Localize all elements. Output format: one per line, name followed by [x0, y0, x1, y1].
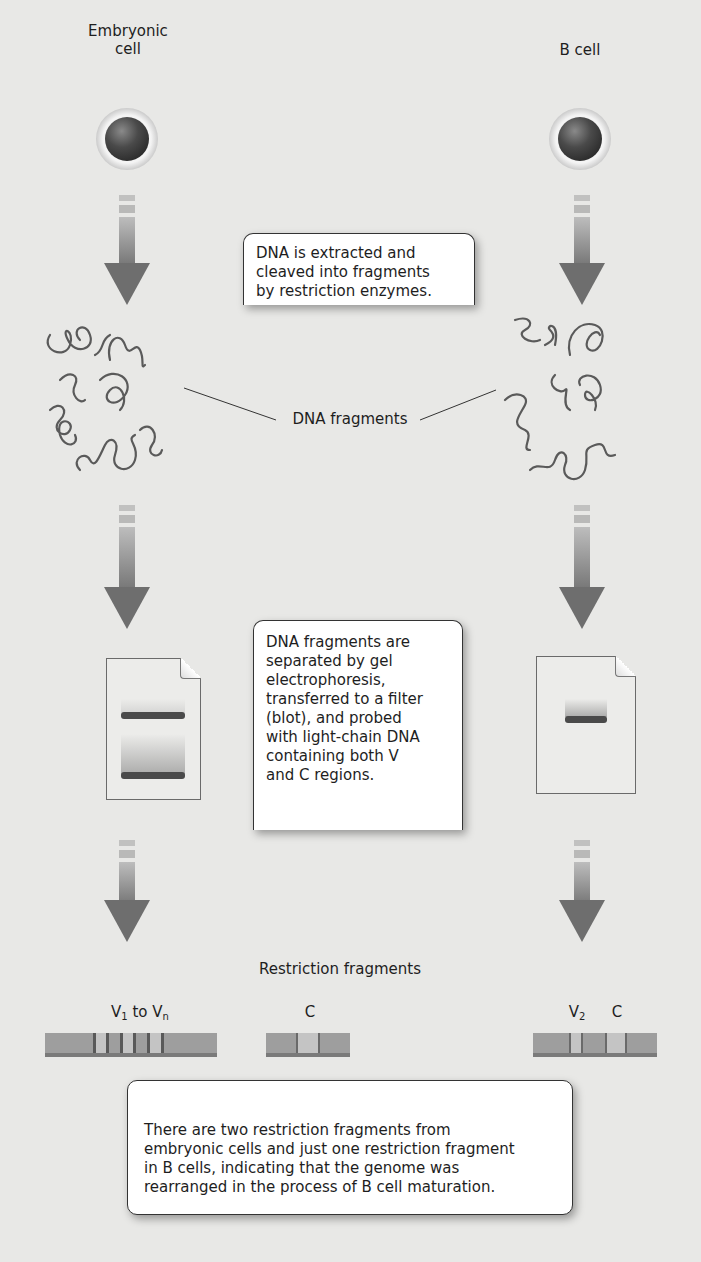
embryonic-cell-icon	[96, 108, 158, 170]
to-text: to V	[128, 1003, 163, 1021]
label-line: Embryonic	[68, 22, 188, 40]
gel-blot-embryonic	[106, 658, 201, 800]
dna-fragments-label: DNA fragments	[275, 410, 425, 428]
dna-fragments-embryonic-icon	[40, 310, 200, 490]
gel-band	[565, 716, 607, 723]
callout-line: DNA fragments are	[266, 633, 450, 652]
v-letter: V	[111, 1003, 121, 1021]
restriction-fragment-v-genes	[45, 1033, 217, 1057]
down-arrow-icon	[104, 505, 150, 635]
down-arrow-icon	[104, 195, 150, 305]
down-arrow-icon	[559, 505, 605, 635]
nucleus-icon	[105, 117, 149, 161]
restriction-fragment-v2-c	[533, 1033, 657, 1057]
callout-line: cleaved into fragments	[256, 263, 462, 282]
v2-label: V2	[562, 1003, 592, 1026]
blot-callout: DNA fragments are separated by gel elect…	[253, 620, 463, 830]
down-arrow-icon	[104, 840, 150, 945]
callout-line: separated by gel	[266, 652, 450, 671]
conclusion-callout: There are two restriction fragments from…	[127, 1080, 573, 1215]
gel-band	[121, 712, 185, 719]
subscript: n	[163, 1011, 169, 1022]
callout-line: electrophoresis,	[266, 671, 450, 690]
gel-blot-bcell	[536, 656, 636, 794]
callout-line: transferred to a filter	[266, 690, 450, 709]
callout-line: with light-chain DNA	[266, 728, 450, 747]
down-arrow-icon	[559, 840, 605, 945]
callout-line: embryonic cells and just one restriction…	[144, 1140, 554, 1159]
restriction-fragments-label: Restriction fragments	[240, 960, 440, 978]
page-fold-icon	[615, 656, 636, 677]
callout-line: (blot), and probed	[266, 709, 450, 728]
b-cell-icon	[549, 108, 611, 170]
dna-fragments-bcell-icon	[500, 310, 660, 490]
callout-line: by restriction enzymes.	[256, 282, 462, 301]
nucleus-icon	[558, 117, 602, 161]
callout-line: in B cells, indicating that the genome w…	[144, 1159, 554, 1178]
label-line: cell	[68, 40, 188, 58]
subscript: 2	[579, 1011, 585, 1022]
gel-band	[121, 772, 185, 779]
page-fold-icon	[180, 658, 201, 679]
down-arrow-icon	[559, 195, 605, 305]
callout-line: DNA is extracted and	[256, 244, 462, 263]
embryonic-cell-label: Embryonic cell	[68, 22, 188, 58]
callout-line: rearranged in the process of B cell matu…	[144, 1178, 554, 1197]
callout-line: and C regions.	[266, 766, 450, 785]
callout-line: There are two restriction fragments from	[144, 1121, 554, 1140]
c-label-embryonic: C	[290, 1003, 330, 1021]
c-label-bcell: C	[602, 1003, 632, 1021]
v1-to-vn-label: V1 to Vn	[90, 1003, 190, 1026]
extraction-callout: DNA is extracted and cleaved into fragme…	[243, 233, 475, 305]
v-letter: V	[569, 1003, 579, 1021]
b-cell-label: B cell	[520, 41, 640, 59]
callout-line: containing both V	[266, 747, 450, 766]
restriction-fragment-c-gene	[266, 1033, 350, 1057]
